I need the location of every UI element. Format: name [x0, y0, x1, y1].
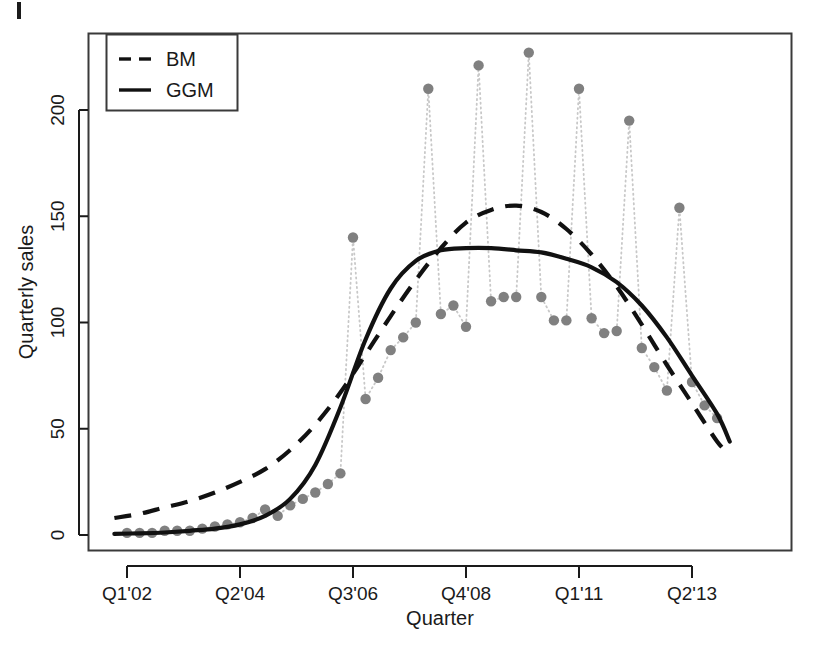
y-axis-title: Quarterly sales: [15, 225, 37, 360]
y-axis: 050100150200: [47, 94, 88, 540]
observed-data-point: [624, 115, 634, 125]
y-axis-ticks: [79, 110, 88, 535]
observed-data-point: [448, 300, 458, 310]
observed-data-point: [373, 373, 383, 383]
ggm-model-curve: [114, 248, 729, 534]
x-axis-title: Quarter: [406, 607, 474, 629]
observed-data-point: [574, 84, 584, 94]
observed-data-point: [649, 362, 659, 372]
observed-data-point: [298, 494, 308, 504]
x-tick-label: Q2'04: [215, 583, 266, 604]
x-axis-ticks: [127, 566, 692, 578]
x-tick-label: Q1'02: [102, 583, 152, 604]
observed-data-point: [423, 84, 433, 94]
bm-model-curve: [114, 206, 729, 518]
y-tick-label: 0: [47, 530, 68, 541]
x-tick-label: Q3'06: [328, 583, 378, 604]
y-tick-label: 50: [47, 418, 68, 439]
observed-data-point: [674, 203, 684, 213]
x-axis: Q1'02Q2'04Q3'06Q4'08Q1'11Q2'13: [102, 566, 717, 604]
observed-data-point: [436, 309, 446, 319]
y-axis-tick-labels: 050100150200: [47, 94, 68, 540]
observed-data-point: [360, 394, 370, 404]
y-tick-label: 200: [47, 94, 68, 126]
x-tick-label: Q4'08: [441, 583, 491, 604]
observed-data-point: [612, 326, 622, 336]
observed-data-point: [662, 385, 672, 395]
chart-figure: 050100150200 Q1'02Q2'04Q3'06Q4'08Q1'11Q2…: [0, 0, 827, 646]
observed-data-point: [511, 292, 521, 302]
observed-data-point: [310, 487, 320, 497]
observed-data-point: [637, 343, 647, 353]
observed-data-point: [549, 315, 559, 325]
x-tick-label: Q2'13: [667, 583, 717, 604]
x-tick-label: Q1'11: [555, 583, 604, 604]
quarterly-sales-chart: 050100150200 Q1'02Q2'04Q3'06Q4'08Q1'11Q2…: [0, 0, 827, 646]
observed-data-point: [348, 232, 358, 242]
observed-data-point: [486, 296, 496, 306]
legend-label-ggm: GGM: [166, 79, 214, 101]
chart-legend: BM GGM: [107, 35, 238, 111]
observed-data-point: [323, 479, 333, 489]
y-tick-label: 100: [47, 307, 68, 339]
observed-data-point: [411, 317, 421, 327]
observed-data-point: [386, 345, 396, 355]
x-axis-tick-labels: Q1'02Q2'04Q3'06Q4'08Q1'11Q2'13: [102, 583, 717, 604]
legend-label-bm: BM: [166, 48, 196, 70]
observed-data-point: [335, 468, 345, 478]
observed-data-point: [586, 313, 596, 323]
observed-data-point: [524, 47, 534, 57]
observed-data-point: [473, 60, 483, 70]
observed-data-point: [499, 292, 509, 302]
y-tick-label: 150: [47, 200, 68, 232]
observed-data-point: [461, 322, 471, 332]
observed-data-point: [561, 315, 571, 325]
observed-data-point: [599, 328, 609, 338]
observed-data-point: [398, 332, 408, 342]
observed-data-point: [536, 292, 546, 302]
page-edge-mark: [17, 2, 21, 19]
